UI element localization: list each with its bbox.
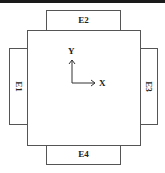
- coordinate-axes-icon: [0, 0, 165, 173]
- x-axis-label: X: [99, 79, 106, 88]
- y-axis-label: Y: [68, 47, 75, 56]
